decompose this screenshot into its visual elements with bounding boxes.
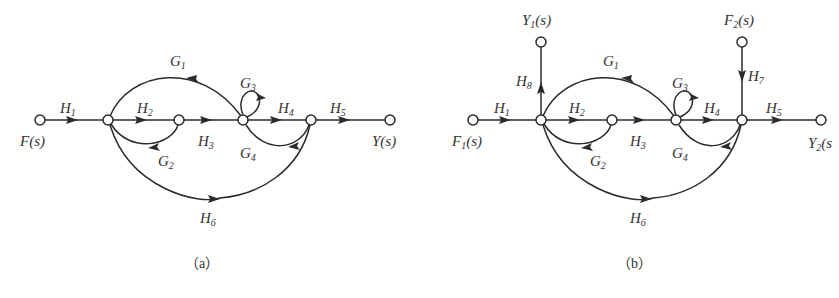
branch-g4 xyxy=(246,125,309,146)
label-input-f1: F1(s) xyxy=(451,133,482,151)
caption-a: （a） xyxy=(185,256,219,271)
node-output-y1 xyxy=(536,37,546,47)
branch-g4 xyxy=(679,125,740,146)
signal-flow-graphs: H1 H2 H3 H4 H5 H6 G1 G2 G3 G4 F(s) Y(s) … xyxy=(0,0,839,298)
label-g1: G1 xyxy=(603,53,619,71)
branch-g1 xyxy=(110,78,241,116)
label-g3: G3 xyxy=(672,75,688,93)
branch-g2 xyxy=(111,124,178,144)
branch-g1 xyxy=(543,78,674,116)
arrow-g3-icon xyxy=(256,93,266,101)
label-h6: H6 xyxy=(629,210,646,228)
label-h1: H1 xyxy=(59,100,76,118)
label-g2: G2 xyxy=(590,153,606,171)
label-h5: H5 xyxy=(765,100,782,118)
label-h3: H3 xyxy=(629,133,646,151)
label-h4: H4 xyxy=(703,100,720,118)
node-3 xyxy=(671,115,681,125)
node-input-f xyxy=(35,115,45,125)
label-g2: G2 xyxy=(158,153,174,171)
node-2 xyxy=(607,115,617,125)
node-output-y2 xyxy=(816,115,826,125)
node-input-f1 xyxy=(468,115,478,125)
label-output-y1: Y1(s) xyxy=(522,12,551,30)
diagram-a: H1 H2 H3 H4 H5 H6 G1 G2 G3 G4 F(s) Y(s) … xyxy=(19,53,396,271)
node-3 xyxy=(238,115,248,125)
label-output-y: Y(s) xyxy=(372,133,396,150)
arrow-g3-icon xyxy=(689,93,699,101)
label-h2: H2 xyxy=(136,100,153,118)
label-h4: H4 xyxy=(277,100,294,118)
label-h6: H6 xyxy=(199,210,216,228)
branch-g2 xyxy=(544,124,611,144)
label-h5: H5 xyxy=(329,100,346,118)
label-h8: H8 xyxy=(515,73,532,91)
label-h7: H7 xyxy=(747,68,765,86)
diagram-b: H1 H2 H3 H4 H5 H6 H7 H8 G1 G2 G3 G4 F1(s… xyxy=(451,12,832,271)
branch-g3 xyxy=(674,91,693,117)
label-h2: H2 xyxy=(568,100,585,118)
caption-b: （b） xyxy=(617,256,652,271)
node-1 xyxy=(536,115,546,125)
label-h3: H3 xyxy=(197,133,214,151)
node-1 xyxy=(103,115,113,125)
label-g1: G1 xyxy=(170,53,186,71)
node-2 xyxy=(174,115,184,125)
label-g4: G4 xyxy=(672,145,688,163)
node-output-y xyxy=(385,115,395,125)
label-input-f: F(s) xyxy=(19,133,45,150)
label-g4: G4 xyxy=(240,145,256,163)
arrow-g4-icon xyxy=(288,142,300,150)
label-output-y2: Y2(s xyxy=(808,135,832,153)
node-4 xyxy=(737,115,747,125)
label-h1: H1 xyxy=(493,100,510,118)
label-input-f2: F2(s) xyxy=(723,12,754,30)
label-g3: G3 xyxy=(240,75,256,93)
node-4 xyxy=(306,115,316,125)
node-input-f2 xyxy=(737,37,747,47)
branch-h6 xyxy=(543,125,741,200)
branch-h6 xyxy=(110,125,310,200)
branch-g3 xyxy=(241,91,260,117)
